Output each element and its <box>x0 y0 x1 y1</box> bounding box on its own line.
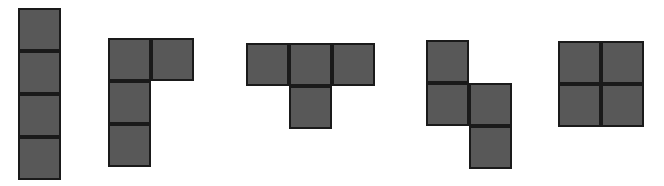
square-tile <box>426 40 469 83</box>
square-tile <box>108 81 151 124</box>
square-tile <box>246 43 289 86</box>
square-tile <box>289 43 332 86</box>
square-tile <box>601 84 644 127</box>
square-tile <box>108 38 151 81</box>
square-tile <box>558 41 601 84</box>
square-tile <box>151 38 194 81</box>
square-tile <box>426 83 469 126</box>
square-tile <box>108 124 151 167</box>
shapes-canvas <box>0 0 664 186</box>
square-tile <box>332 43 375 86</box>
square-tile <box>18 94 61 137</box>
square-tile <box>18 137 61 180</box>
square-tile <box>558 84 601 127</box>
square-tile <box>469 126 512 169</box>
square-tile <box>601 41 644 84</box>
square-tile <box>469 83 512 126</box>
square-tile <box>18 8 61 51</box>
square-tile <box>18 51 61 94</box>
square-tile <box>289 86 332 129</box>
